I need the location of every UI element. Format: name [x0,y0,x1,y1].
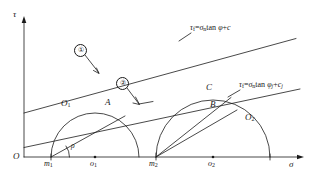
x-axis-arrowhead [297,155,304,160]
formula-leader-2 [228,90,240,97]
leader-line-2b [139,102,153,105]
leader-line-2 [127,88,139,104]
o1-sub: 1 [94,162,97,168]
envelope-marker-1: ① [74,44,87,57]
circle-1-label: O1 [61,99,71,108]
circle-1-sub: 1 [68,102,71,108]
x-axis-label: σ [289,160,293,169]
circle-2-sub: 2 [252,116,255,122]
angle-rho-label: ρ [71,142,75,150]
eq2-tan: tan [255,80,265,89]
point-c-label: C [206,83,212,92]
o2-sub: 2 [212,162,215,168]
origin-label: O [13,152,20,161]
tick-dot-o1 [94,156,97,159]
eq2-c-sub: j [281,83,283,89]
mohr-circle-1 [51,113,139,157]
y-axis-arrowhead [22,16,27,23]
chord-m2-c [156,98,231,158]
circle-2-label: O2 [245,113,255,122]
y-axis-label: τ [13,10,16,19]
eq1-tan: tan [206,23,216,32]
point-b-label: B [210,100,216,109]
leader-line-1 [85,55,99,73]
m1-sub: 1 [50,162,53,168]
formula-leader-1 [179,33,191,41]
m2-label: m2 [149,160,158,168]
mohr-circle-figure: τ σ O ① ② τf=σntan φ+c τf=σntan φj+cj O1… [0,0,312,174]
m1-label: m1 [44,160,53,168]
chord-m1-a [51,116,125,157]
o1-label: o1 [90,160,97,168]
o2-label: o2 [208,160,215,168]
envelope-marker-2: ② [116,77,129,90]
point-a-label: A [105,98,111,107]
envelope-equation-2: τf=σntan φj+cj [239,81,283,89]
envelope-equation-1: τf=σntan φ+c [190,24,231,32]
eq1-c: c [227,23,231,32]
tick-dot-o2 [212,156,215,159]
m2-sub: 2 [155,162,158,168]
